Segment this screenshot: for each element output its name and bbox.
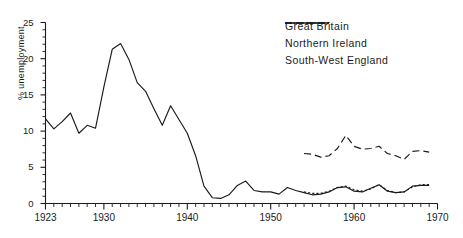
legend-item[interactable]: Northern Ireland <box>285 35 388 52</box>
legend-line-sample-dotted <box>285 18 329 28</box>
y-axis-tick-label: 15 <box>12 89 34 100</box>
x-axis-tick-label: 1940 <box>167 212 207 223</box>
chart-legend: Great BritainNorthern IrelandSouth-West … <box>285 18 388 69</box>
y-axis-tick-label: 10 <box>12 125 34 136</box>
chart-figure: % unemployment Great BritainNorthern Ire… <box>0 0 463 238</box>
x-axis-tick-label: 1960 <box>334 212 374 223</box>
series-line-south-west-england <box>304 185 429 194</box>
series-line-northern-ireland <box>304 135 429 159</box>
x-axis-tick-label: 1950 <box>251 212 291 223</box>
x-axis-tick-label: 1970 <box>418 212 458 223</box>
legend-item-label: South-West England <box>285 52 388 69</box>
legend-item-label: Northern Ireland <box>285 35 367 52</box>
x-axis-tick-label: 1930 <box>84 212 124 223</box>
plot-area <box>0 0 463 238</box>
y-axis-tick-label: 20 <box>12 53 34 64</box>
legend-item[interactable]: South-West England <box>285 52 388 69</box>
x-axis-tick-label: 1923 <box>26 212 66 223</box>
y-axis-tick-label: 25 <box>12 17 34 28</box>
y-axis-tick-label: 5 <box>12 161 34 172</box>
y-axis-tick-label: 0 <box>12 198 34 209</box>
